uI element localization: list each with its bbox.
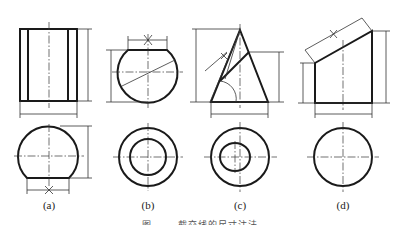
label-d: (d) bbox=[337, 199, 350, 211]
figure-caption: 图 ·· ·· 截交线的尺寸注法 bbox=[142, 218, 258, 225]
label-b: (b) bbox=[142, 199, 155, 211]
view-c-top bbox=[204, 122, 277, 192]
label-a: (a) bbox=[43, 199, 55, 211]
label-c: (c) bbox=[234, 199, 246, 211]
view-c-front bbox=[190, 24, 284, 118]
view-b-front bbox=[106, 34, 183, 108]
view-d-top bbox=[307, 122, 379, 192]
view-b-top bbox=[113, 123, 183, 191]
view-a-front bbox=[20, 22, 92, 118]
view-d-front bbox=[298, 18, 390, 118]
view-a-top bbox=[14, 124, 92, 194]
drawing-canvas bbox=[0, 0, 401, 225]
